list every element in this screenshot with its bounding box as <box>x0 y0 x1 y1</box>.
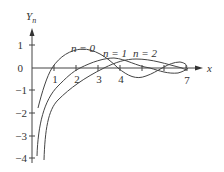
y-tick-label: −2 <box>15 107 27 119</box>
x-axis-label: x <box>206 62 212 74</box>
x-tick-label: 4 <box>118 73 124 85</box>
x-tick-label: 7 <box>184 74 190 86</box>
x-tick-label: 3 <box>96 73 102 85</box>
bessel-y-chart: Yn x 1 0 −1 −2 −3 −4 1 2 3 4 7 n = 0 n =… <box>0 0 224 172</box>
y-axis-label: Yn <box>26 10 36 25</box>
x-axis-arrow-icon <box>195 66 203 71</box>
y-tick-label: −1 <box>15 84 27 96</box>
y-tick-label: −4 <box>15 152 27 164</box>
curve-n2 <box>44 59 188 160</box>
y-tick-label: 0 <box>18 62 24 74</box>
curve-n1 <box>37 58 188 156</box>
x-tick-label: 1 <box>52 73 58 85</box>
series-label-n2: n = 2 <box>133 47 157 59</box>
y-tick-label: 1 <box>18 39 24 51</box>
series-label-n0: n = 0 <box>71 42 95 54</box>
y-tick-label: −3 <box>15 130 27 142</box>
y-axis-arrow-icon <box>30 28 35 36</box>
series-label-n1: n = 1 <box>103 47 127 59</box>
